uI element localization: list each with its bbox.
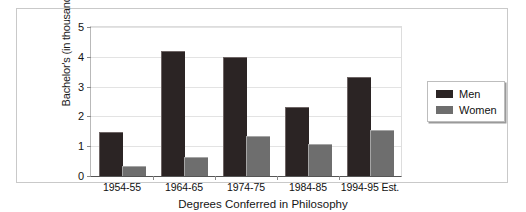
chart-caption: Degrees Conferred in Philosophy	[0, 197, 526, 212]
x-tick-label: 1974-75	[227, 181, 265, 193]
bar-men-1994-95-est-	[347, 77, 371, 176]
x-tick-mark	[153, 176, 154, 180]
y-tick-mark	[87, 116, 91, 117]
bar-women-1954-55	[122, 166, 146, 176]
legend-label-women: Women	[459, 104, 497, 116]
x-tick-label: 1994-95 Est.	[341, 181, 399, 193]
y-tick-label: 0	[78, 170, 84, 182]
plot-area: 0123451954-551964-651974-751984-851994-9…	[90, 26, 402, 177]
bar-men-1964-65	[161, 51, 185, 176]
bar-women-1964-65	[184, 157, 208, 176]
y-tick-mark	[87, 176, 91, 177]
legend-swatch-men-icon	[436, 90, 453, 98]
y-tick-mark	[87, 27, 91, 28]
bar-group	[223, 27, 269, 176]
bar-women-1994-95-est-	[370, 130, 394, 176]
legend-label-men: Men	[459, 88, 480, 100]
bar-group	[347, 27, 393, 176]
bar-women-1974-75	[246, 136, 270, 176]
chart-figure: Bachelor's (in thousands) 0123451954-551…	[0, 0, 526, 212]
bar-men-1974-75	[223, 57, 247, 176]
bar-men-1984-85	[285, 107, 309, 176]
x-tick-label: 1954-55	[103, 181, 141, 193]
x-tick-mark	[339, 176, 340, 180]
legend-swatch-women-icon	[436, 106, 453, 114]
y-tick-label: 2	[78, 110, 84, 122]
y-tick-label: 4	[78, 51, 84, 63]
y-axis-title: Bachelor's (in thousands)	[58, 0, 74, 122]
x-tick-mark	[277, 176, 278, 180]
legend-item-men: Men	[436, 86, 504, 102]
y-tick-label: 5	[78, 21, 84, 33]
x-tick-label: 1964-65	[165, 181, 203, 193]
y-tick-mark	[87, 87, 91, 88]
bar-group	[161, 27, 207, 176]
y-tick-mark	[87, 57, 91, 58]
x-tick-label: 1984-85	[289, 181, 327, 193]
y-tick-label: 3	[78, 81, 84, 93]
legend-item-women: Women	[436, 102, 504, 118]
bar-men-1954-55	[99, 132, 123, 176]
bar-group	[285, 27, 331, 176]
x-tick-mark	[215, 176, 216, 180]
chart-legend: Men Women	[427, 81, 505, 122]
y-tick-label: 1	[78, 140, 84, 152]
y-tick-mark	[87, 146, 91, 147]
bar-women-1984-85	[308, 144, 332, 176]
chart-frame: Bachelor's (in thousands) 0123451954-551…	[16, 8, 508, 183]
bar-group	[99, 27, 145, 176]
